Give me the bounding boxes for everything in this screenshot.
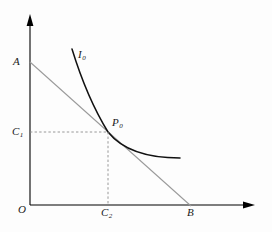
indifference-curve-label: I0	[78, 49, 85, 60]
quantity-x-label: C2	[101, 207, 112, 218]
equilibrium-point-label-text: P	[112, 116, 119, 128]
origin-label: O	[18, 204, 26, 215]
quantity-x-label-sub: 2	[109, 212, 113, 220]
quantity-y-label: C1	[12, 126, 23, 137]
consumer-equilibrium-diagram: O A B C1 C2 P0 I0	[0, 0, 272, 232]
quantity-x-label-text: C	[101, 206, 108, 218]
y-axis-arrow-icon	[27, 14, 34, 26]
quantity-y-label-text: C	[12, 125, 19, 137]
equilibrium-point-label-sub: 0	[119, 122, 123, 130]
budget-x-intercept-label: B	[187, 207, 194, 218]
x-axis-arrow-icon	[243, 202, 255, 209]
budget-y-intercept-label: A	[13, 56, 20, 67]
quantity-y-label-sub: 1	[20, 131, 24, 139]
equilibrium-point-label: P0	[112, 117, 122, 128]
indifference-curve	[72, 49, 180, 158]
diagram-canvas	[0, 0, 272, 232]
indifference-curve-label-sub: 0	[82, 54, 86, 62]
